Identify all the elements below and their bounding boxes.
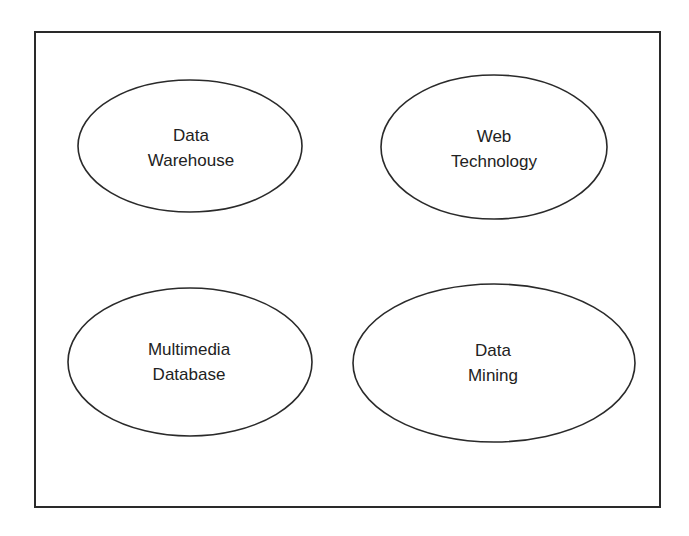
label-line: Database (148, 362, 230, 387)
label-line: Technology (451, 149, 537, 174)
label-line: Multimedia (148, 337, 230, 362)
label-line: Data (468, 338, 518, 363)
label-line: Data (148, 123, 234, 148)
data-mining-label: Data Mining (468, 338, 518, 388)
label-line: Mining (468, 363, 518, 388)
label-line: Web (451, 124, 537, 149)
multimedia-database-label: Multimedia Database (148, 337, 230, 387)
data-warehouse-label: Data Warehouse (148, 123, 234, 173)
ellipses-layer (0, 0, 689, 536)
web-technology-label: Web Technology (451, 124, 537, 174)
label-line: Warehouse (148, 148, 234, 173)
